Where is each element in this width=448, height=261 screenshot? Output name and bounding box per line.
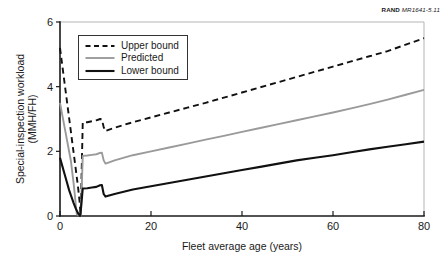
chart-legend: Upper boundPredictedLower bound — [78, 35, 188, 80]
y-axis-title-line-1: Special-inspection workload — [14, 54, 26, 184]
legend-label: Upper bound — [121, 41, 179, 51]
legend-item-predicted[interactable]: Predicted — [79, 52, 187, 64]
x-tick-label-0: 0 — [57, 220, 63, 232]
y-tick-label-2: 2 — [47, 145, 53, 157]
x-tick-label-40: 40 — [236, 220, 248, 232]
x-tick-label-80: 80 — [418, 220, 430, 232]
legend-item-upper-bound[interactable]: Upper bound — [79, 40, 187, 52]
legend-item-lower-bound[interactable]: Lower bound — [79, 65, 187, 77]
series-line-predicted — [60, 90, 424, 216]
x-axis-title: Fleet average age (years) — [182, 240, 302, 252]
legend-swatch-icon — [85, 66, 115, 76]
figure-container: RANDMR1641-5.11 0246020406080Fleet avera… — [0, 0, 448, 261]
legend-swatch-icon — [85, 41, 115, 51]
y-tick-label-0: 0 — [47, 210, 53, 222]
legend-swatch-icon — [85, 53, 115, 63]
x-tick-label-60: 60 — [327, 220, 339, 232]
legend-label: Lower bound — [121, 66, 179, 76]
y-tick-label-4: 4 — [47, 81, 53, 93]
chart-plot: 0246020406080Fleet average age (years)Sp… — [0, 0, 448, 261]
legend-label: Predicted — [121, 53, 163, 63]
series-line-lower-bound — [60, 142, 424, 216]
x-tick-label-20: 20 — [145, 220, 157, 232]
y-axis-title-line-2: (MMH/FH) — [26, 95, 38, 144]
y-tick-label-6: 6 — [47, 16, 53, 28]
